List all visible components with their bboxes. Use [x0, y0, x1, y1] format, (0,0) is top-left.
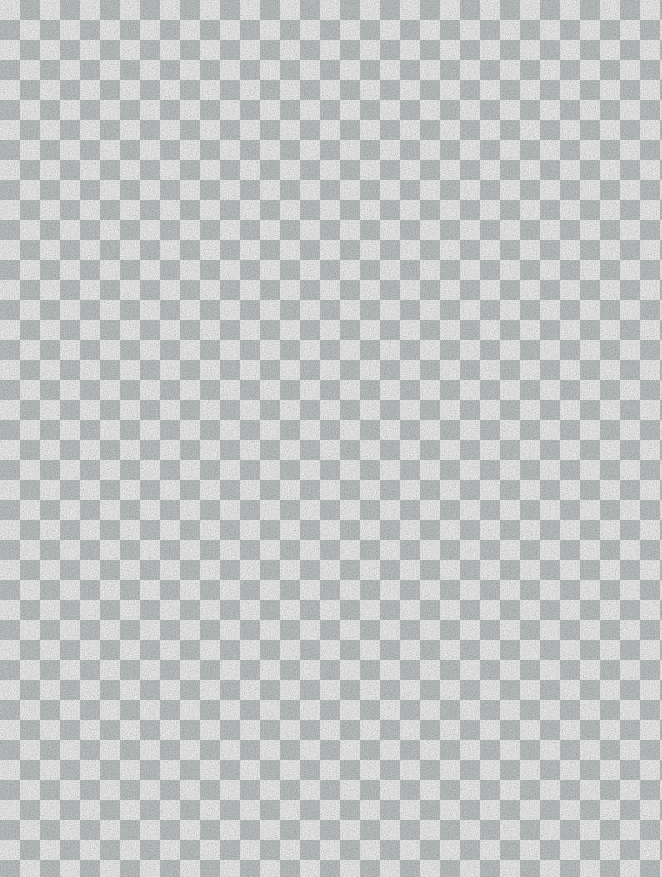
transparency-canvas: Transparency checkerboard pattern fillin…: [0, 0, 662, 877]
checkerboard-pattern: [0, 0, 662, 877]
